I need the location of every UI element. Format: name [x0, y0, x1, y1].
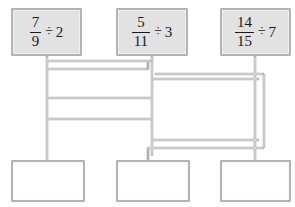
fraction-3: 14 15 [235, 15, 254, 49]
division-operator-2: ÷ [154, 25, 162, 39]
divisor-2: 3 [165, 25, 173, 40]
answer-card-3[interactable] [220, 160, 291, 202]
fraction-1-denominator: 9 [30, 33, 42, 49]
fraction-3-denominator: 15 [235, 33, 254, 49]
fraction-1-numerator: 7 [30, 15, 42, 31]
fraction-2-denominator: 11 [132, 33, 150, 49]
answer-card-1[interactable] [11, 160, 85, 202]
expression-card-2[interactable]: 5 11 ÷ 3 [116, 8, 188, 56]
diagram-canvas: 7 9 ÷ 2 5 11 ÷ 3 14 15 ÷ 7 [0, 0, 295, 207]
expression-1: 7 9 ÷ 2 [30, 15, 64, 49]
expression-2: 5 11 ÷ 3 [132, 15, 173, 49]
expression-3: 14 15 ÷ 7 [235, 15, 276, 49]
division-operator-3: ÷ [258, 25, 266, 39]
expression-card-1[interactable]: 7 9 ÷ 2 [11, 8, 82, 56]
expression-card-3[interactable]: 14 15 ÷ 7 [220, 8, 291, 56]
division-operator-1: ÷ [45, 25, 53, 39]
fraction-3-numerator: 14 [235, 15, 254, 31]
fraction-1: 7 9 [30, 15, 42, 49]
answer-card-2[interactable] [116, 160, 190, 202]
fraction-2-numerator: 5 [135, 15, 147, 31]
fraction-2: 5 11 [132, 15, 150, 49]
divisor-1: 2 [56, 25, 64, 40]
divisor-3: 7 [269, 25, 277, 40]
